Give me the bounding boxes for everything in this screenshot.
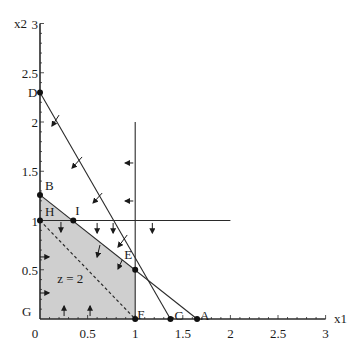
vertex-label-C: C <box>174 308 183 323</box>
x-tick-label: 3 <box>322 326 329 341</box>
y-tick-label: 1.5 <box>22 164 38 179</box>
x-tick-label: 1.5 <box>175 326 191 341</box>
plot-canvas: x2 x1 z = 2 00.511.522.530.511.522.53DBH… <box>0 0 362 361</box>
x-tick-label: 1 <box>132 326 139 341</box>
vertex-label-D: D <box>28 85 37 100</box>
vertex-label-B: B <box>45 178 54 193</box>
y-tick-label: 2 <box>32 115 39 130</box>
vertex-label-A: A <box>200 308 210 323</box>
vertex-point-E <box>132 267 138 273</box>
vertex-label-H: H <box>45 204 54 219</box>
vertex-point-B <box>37 192 43 198</box>
vertex-label-E: E <box>124 247 132 262</box>
vertex-point-I <box>70 218 76 224</box>
y-tick-label: 0.5 <box>22 263 38 278</box>
y-tick-label: 1 <box>32 214 39 229</box>
x-tick-label: 2 <box>227 326 234 341</box>
vertex-label-F: F <box>137 307 144 322</box>
x-tick-label: 0 <box>32 326 39 341</box>
vertex-label-G: G <box>22 304 31 319</box>
x-tick-label: 2.5 <box>270 326 286 341</box>
vertex-point-C <box>167 316 173 322</box>
y-tick-label: 3 <box>32 17 39 32</box>
vertex-point-D <box>37 89 43 95</box>
x-axis-label: x1 <box>334 311 347 326</box>
lp-feasible-region-diagram: x2 x1 z = 2 00.511.522.530.511.522.53DBH… <box>0 0 362 361</box>
x-tick-label: 0.5 <box>79 326 95 341</box>
objective-value-label: z = 2 <box>57 271 83 286</box>
y-tick-label: 2.5 <box>22 66 38 81</box>
y-axis-label: x2 <box>14 16 27 31</box>
vertex-label-I: I <box>75 203 79 218</box>
